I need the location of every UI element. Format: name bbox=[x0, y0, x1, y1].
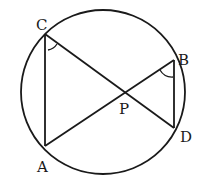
segment-ab bbox=[45, 60, 174, 146]
label-p: P bbox=[119, 100, 129, 118]
label-b: B bbox=[178, 51, 189, 69]
geometry-diagram: C B P D A bbox=[0, 0, 207, 185]
label-c: C bbox=[36, 16, 47, 34]
label-a: A bbox=[36, 158, 48, 176]
segment-cd bbox=[45, 34, 174, 128]
angle-mark-c bbox=[48, 44, 57, 50]
angle-mark-b bbox=[160, 70, 173, 77]
label-d: D bbox=[180, 128, 192, 146]
